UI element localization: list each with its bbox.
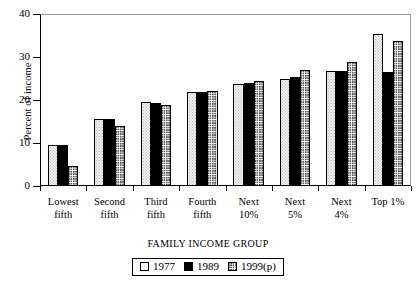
x-axis-tick <box>365 186 366 191</box>
x-axis-label-line: Top 1% <box>365 196 411 209</box>
bar-1999p-next-5- <box>300 70 310 186</box>
bar-1977-fourth-fifth <box>187 92 197 186</box>
x-axis-label-line: 4% <box>318 209 364 222</box>
bar-1977-lowest-fifth <box>48 145 58 186</box>
x-axis-label-lowest-fifth: Lowestfifth <box>40 196 86 221</box>
bar-1977-next-4- <box>326 71 336 186</box>
x-axis-label-line: Next <box>226 196 272 209</box>
bar-1989-next-5- <box>290 77 300 186</box>
y-axis-tick-label: 30 <box>0 51 30 62</box>
legend-item-label: 1977 <box>153 261 175 272</box>
y-axis-tick <box>33 100 40 101</box>
legend-item-1989[interactable]: 1989 <box>184 261 219 272</box>
bar-1977-next-5- <box>280 79 290 187</box>
y-axis-tick <box>33 57 40 58</box>
x-axis-label-line: Next <box>318 196 364 209</box>
x-axis-tick <box>226 186 227 191</box>
bar-1989-next-10- <box>244 83 254 186</box>
bar-1999p-third-fifth <box>161 105 171 186</box>
y-axis-tick <box>33 143 40 144</box>
x-axis-label-line: 5% <box>272 209 318 222</box>
x-axis-tick <box>40 186 41 191</box>
bars-layer <box>40 14 411 186</box>
solid-black-swatch <box>184 262 193 271</box>
y-axis-tick-label: 40 <box>0 8 30 19</box>
x-axis-label-line: fifth <box>133 209 179 222</box>
x-axis-label-line: 10% <box>226 209 272 222</box>
legend-item-1999p[interactable]: 1999(p) <box>228 261 276 272</box>
x-axis-label-next-10-: Next10% <box>226 196 272 221</box>
x-axis-label-next-5-: Next5% <box>272 196 318 221</box>
bar-1999p-second-fifth <box>115 126 125 186</box>
legend-item-1977[interactable]: 1977 <box>140 261 175 272</box>
bar-1989-third-fifth <box>151 103 161 186</box>
x-axis-label-line: Second <box>86 196 132 209</box>
y-axis-tick-label: 20 <box>0 94 30 105</box>
x-axis-label-line: Third <box>133 196 179 209</box>
x-axis-title: FAMILY INCOME GROUP <box>0 238 416 249</box>
x-axis-label-line: fifth <box>86 209 132 222</box>
bar-1999p-fourth-fifth <box>207 91 217 186</box>
x-axis-tick <box>179 186 180 191</box>
x-axis-label-line: Next <box>272 196 318 209</box>
x-axis-label-line: Lowest <box>40 196 86 209</box>
x-axis-label-line: fifth <box>40 209 86 222</box>
x-axis-tick <box>86 186 87 191</box>
bar-chart: Percent of income 010203040 LowestfifthS… <box>0 0 416 290</box>
legend-item-label: 1999(p) <box>241 261 276 272</box>
bar-1999p-lowest-fifth <box>68 166 78 186</box>
x-axis-label-line: Fourth <box>179 196 225 209</box>
x-axis-tick <box>272 186 273 191</box>
x-axis-label-third-fifth: Thirdfifth <box>133 196 179 221</box>
x-axis-label-top-1-: Top 1% <box>365 196 411 209</box>
y-axis-tick-label: 10 <box>0 137 30 148</box>
bar-1999p-next-10- <box>254 81 264 186</box>
bar-1989-second-fifth <box>104 119 114 187</box>
bar-1989-fourth-fifth <box>197 92 207 186</box>
x-axis-label-second-fifth: Secondfifth <box>86 196 132 221</box>
bar-1977-second-fifth <box>94 119 104 186</box>
hatched-swatch <box>228 262 237 271</box>
light-stipple-swatch <box>140 262 149 271</box>
y-axis-tick <box>33 14 40 15</box>
bar-1977-top-1- <box>373 34 383 186</box>
x-axis-tick <box>133 186 134 191</box>
bar-1999p-top-1- <box>393 41 403 186</box>
bar-1989-next-4- <box>336 71 346 186</box>
legend-box: 197719891999(p) <box>132 258 284 276</box>
y-axis-tick <box>33 186 40 187</box>
y-axis-tick-label: 0 <box>0 180 30 191</box>
bar-1989-lowest-fifth <box>58 145 68 186</box>
legend: 197719891999(p) <box>0 258 416 276</box>
x-axis-label-next-4-: Next4% <box>318 196 364 221</box>
x-axis-label-line: fifth <box>179 209 225 222</box>
x-axis-tick <box>318 186 319 191</box>
legend-item-label: 1989 <box>197 261 219 272</box>
bar-1999p-next-4- <box>347 62 357 186</box>
x-axis-tick <box>411 186 412 191</box>
bar-1977-third-fifth <box>141 102 151 186</box>
bar-1977-next-10- <box>233 84 243 186</box>
bar-1989-top-1- <box>383 72 393 186</box>
x-axis-label-fourth-fifth: Fourthfifth <box>179 196 225 221</box>
